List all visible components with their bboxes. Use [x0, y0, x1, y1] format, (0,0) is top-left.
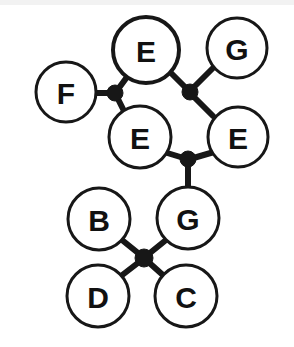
- node-g-n-g-bottom[interactable]: G: [157, 187, 219, 249]
- node-label: G: [176, 203, 199, 236]
- node-g-n-g-top[interactable]: G: [207, 18, 267, 78]
- junction-dot-j-left[interactable]: [107, 85, 123, 101]
- node-d-n-d[interactable]: D: [67, 265, 129, 327]
- junction-dot-j-upper[interactable]: [182, 84, 198, 100]
- node-e-n-e-top[interactable]: E: [113, 17, 179, 83]
- node-f-n-f[interactable]: F: [36, 62, 96, 122]
- node-label: E: [228, 122, 248, 155]
- node-label: D: [87, 281, 109, 314]
- node-e-n-e-mid[interactable]: E: [109, 106, 171, 168]
- node-label: F: [57, 77, 75, 110]
- node-c-n-c[interactable]: C: [155, 265, 217, 327]
- nodes-layer: EGFEEBGDC: [36, 17, 268, 327]
- diagram-root: EGFEEBGDC: [0, 0, 294, 347]
- junction-dot-j-cross[interactable]: [135, 249, 153, 267]
- node-label: E: [130, 122, 150, 155]
- node-e-n-e-right[interactable]: E: [208, 107, 268, 167]
- graph-canvas: EGFEEBGDC: [0, 0, 294, 347]
- node-label: E: [136, 35, 156, 68]
- node-label: B: [88, 204, 110, 237]
- junction-dot-j-middle[interactable]: [180, 151, 196, 167]
- node-label: G: [225, 33, 248, 66]
- node-b-n-b[interactable]: B: [68, 188, 130, 250]
- node-label: C: [175, 281, 197, 314]
